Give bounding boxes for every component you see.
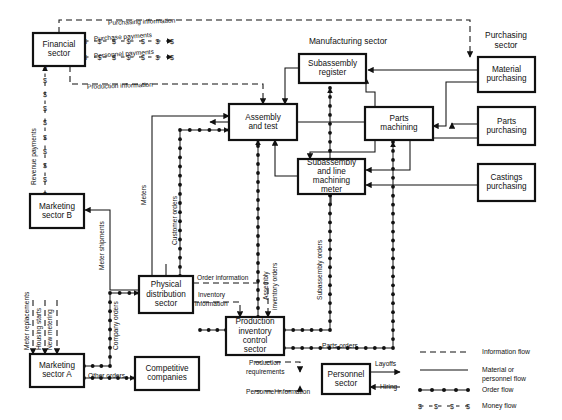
node-financial[interactable]: Financialsector bbox=[33, 33, 85, 66]
legend-label-material-flow-1: Material or bbox=[482, 366, 515, 373]
order-flow-dot bbox=[178, 174, 182, 178]
legend-item-money-flow: $$$$Money flow bbox=[418, 402, 516, 410]
order-flow-dot bbox=[178, 247, 182, 251]
order-flow-dot bbox=[328, 265, 332, 269]
order-flow-dot bbox=[178, 219, 182, 223]
order-flow-dot bbox=[328, 319, 332, 323]
edge-label-customer-orders: Customer orders bbox=[171, 195, 178, 245]
order-flow-dot bbox=[391, 283, 395, 287]
node-subassembly_line[interactable]: Subassemblyand linemachiningmeter bbox=[298, 158, 365, 195]
node-subassembly_reg[interactable]: Subassemblyregister bbox=[299, 54, 366, 83]
order-flow-dot bbox=[373, 346, 377, 350]
node-label-line: sector bbox=[155, 299, 178, 308]
legend-item-material-flow-2: personnel flow bbox=[482, 375, 526, 383]
order-flow-dot bbox=[256, 171, 260, 175]
order-flow-dot bbox=[328, 221, 332, 225]
money-flow-glyph: $ bbox=[170, 54, 174, 61]
node-assembly_test[interactable]: Assemblyand test bbox=[229, 104, 297, 140]
flow-material-to-parts-machining bbox=[433, 82, 478, 126]
node-label-line: Marketing bbox=[39, 202, 75, 211]
order-flow-dot bbox=[108, 291, 112, 295]
order-flow-dot bbox=[99, 364, 103, 368]
order-flow-dot bbox=[328, 212, 332, 216]
money-flow-glyph: $ bbox=[43, 119, 47, 126]
node-label-line: Castings bbox=[491, 173, 523, 182]
legend-label-material-flow-2: personnel flow bbox=[482, 375, 526, 383]
node-parts_purch[interactable]: Partspurchasing bbox=[478, 107, 535, 145]
money-flow-glyph: $ bbox=[43, 105, 47, 112]
legend-order-dot bbox=[418, 388, 422, 392]
order-flow-dot bbox=[118, 291, 122, 295]
node-label-line: control bbox=[243, 336, 268, 345]
order-flow-dot bbox=[291, 346, 295, 350]
flow-parts-purchasing bbox=[452, 123, 478, 124]
edge-label-meter-replacements: Meter replacements bbox=[23, 291, 31, 350]
node-label-line: Physical bbox=[151, 280, 182, 289]
order-flow-dot bbox=[256, 252, 260, 256]
flow-sublinemeter-to-assembly bbox=[275, 140, 298, 176]
money-flow-glyph: $ bbox=[43, 162, 47, 169]
order-flow-dot bbox=[178, 228, 182, 232]
legend-money-glyph: $ bbox=[434, 403, 438, 410]
order-flow-dot bbox=[391, 167, 395, 171]
order-flow-dot bbox=[309, 346, 313, 350]
node-label-line: Parts bbox=[497, 117, 516, 126]
node-label-line: inventory bbox=[238, 327, 272, 336]
order-flow-dot bbox=[178, 183, 182, 187]
order-flow-dot bbox=[328, 122, 332, 126]
node-prod_inv_ctrl[interactable]: Productioninventorycontrolsector bbox=[226, 317, 284, 355]
node-label-line: Personnel bbox=[328, 370, 365, 379]
node-competitive[interactable]: Competitivecompanies bbox=[135, 357, 199, 390]
order-flow-dot bbox=[391, 158, 395, 162]
legend-money-glyph: $ bbox=[418, 403, 422, 410]
node-marketing_a[interactable]: Marketingsector A bbox=[30, 354, 84, 387]
order-flow-dot bbox=[364, 346, 368, 350]
order-flow-dot bbox=[256, 198, 260, 202]
order-flow-dot bbox=[91, 364, 95, 368]
node-castings_purch[interactable]: Castingspurchasing bbox=[478, 164, 535, 201]
order-flow-dot bbox=[178, 128, 182, 132]
order-flow-dot bbox=[178, 210, 182, 214]
legend-order-dot bbox=[454, 388, 458, 392]
order-flow-dot bbox=[328, 310, 332, 314]
node-label-line: Material bbox=[492, 65, 521, 74]
order-flow-dot bbox=[256, 261, 260, 265]
legend-label-information-flow: Information flow bbox=[482, 348, 530, 355]
node-marketing_b[interactable]: Marketingsector B bbox=[30, 194, 84, 228]
node-personnel[interactable]: Personnelsector bbox=[322, 364, 370, 394]
order-flow-dot bbox=[256, 207, 260, 211]
order-flow-dot bbox=[178, 192, 182, 196]
edge-label-production-information: Production information bbox=[87, 81, 154, 90]
order-flow-dot bbox=[328, 256, 332, 260]
order-flow-dot bbox=[108, 355, 112, 359]
edge-label-other-orders: Other orders bbox=[88, 372, 126, 379]
order-flow-dot bbox=[217, 128, 221, 132]
order-flow-dot bbox=[178, 265, 182, 269]
order-flow-dot bbox=[391, 203, 395, 207]
order-flow-dot bbox=[256, 153, 260, 157]
order-flow-dot bbox=[127, 291, 131, 295]
order-flow-dot bbox=[178, 238, 182, 242]
order-flow-dot bbox=[256, 162, 260, 166]
order-flow-dot bbox=[198, 328, 202, 332]
order-flow-dot bbox=[391, 176, 395, 180]
legend-label-money-flow: Money flow bbox=[482, 402, 516, 410]
node-label-line: Competitive bbox=[145, 364, 189, 373]
money-flow-glyph: $ bbox=[43, 148, 47, 155]
order-flow-dot bbox=[391, 230, 395, 234]
flow-meters bbox=[152, 116, 229, 276]
order-flow-dot bbox=[328, 95, 332, 99]
node-label-line: Subassembly bbox=[308, 59, 358, 68]
node-material_purch[interactable]: Materialpurchasing bbox=[478, 57, 535, 92]
order-flow-dot bbox=[328, 86, 332, 90]
order-flow-dot bbox=[391, 274, 395, 278]
order-flow-dot bbox=[328, 140, 332, 144]
node-label-line: and test bbox=[248, 122, 278, 131]
order-flow-dot bbox=[256, 306, 260, 310]
order-flow-dot bbox=[391, 239, 395, 243]
node-label-line: sector bbox=[335, 379, 358, 388]
money-flow-glyph: $ bbox=[43, 77, 47, 84]
node-parts_machining[interactable]: Partsmachining bbox=[365, 107, 433, 140]
order-flow-dot bbox=[391, 257, 395, 261]
node-physical_dist[interactable]: Physicaldistributionsector bbox=[139, 276, 193, 313]
